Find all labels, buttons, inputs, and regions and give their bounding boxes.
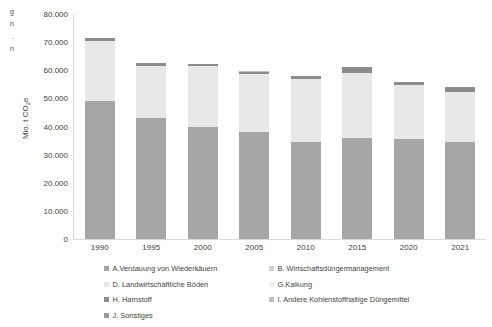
bar-segment[interactable] (188, 66, 218, 126)
legend-item-label: I. Andere Kohlenstoffhaltige Düngemittel (278, 295, 410, 304)
stacked-bar[interactable] (342, 67, 372, 239)
bar-segment[interactable] (188, 127, 218, 240)
legend-item-label: D. Landwirtschaftliche Böden (113, 280, 209, 289)
stacked-bar[interactable] (188, 64, 218, 239)
legend-swatch-icon (269, 266, 274, 271)
bar-segment[interactable] (445, 142, 475, 239)
legend-item-label: A.Verdauung von Wiederkäuern (113, 264, 218, 273)
bar-segment[interactable] (85, 101, 115, 239)
bar-segment[interactable] (239, 74, 269, 131)
x-axis-line (73, 239, 486, 240)
bar-segment[interactable] (136, 118, 166, 240)
y-axis-tick-label: 50.000 (4, 94, 68, 103)
bar-segment[interactable] (342, 73, 372, 138)
legend-swatch-icon (104, 297, 109, 302)
bar-slot (383, 14, 435, 239)
bar-segment[interactable] (291, 79, 321, 141)
bar-chart: gn.n Mio. t CO2e 80.00070.00060.00050.00… (0, 0, 492, 327)
bar-slot (126, 14, 178, 239)
legend-item[interactable]: J. Sonstiges (104, 308, 269, 324)
legend-item-label: H. Harnstoff (113, 295, 152, 304)
stacked-bar[interactable] (239, 71, 269, 239)
x-axis-tick-label: 2021 (435, 243, 487, 252)
bar-slot (435, 14, 487, 239)
stacked-bar[interactable] (85, 38, 115, 239)
y-axis-tick-label: 80.000 (4, 10, 68, 19)
bar-slot (229, 14, 281, 239)
bar-segment[interactable] (394, 85, 424, 140)
y-axis-tick-label: 40.000 (4, 122, 68, 131)
legend-item[interactable]: A.Verdauung von Wiederkäuern (104, 261, 269, 277)
legend-swatch-icon (269, 282, 274, 287)
x-axis-ticks: 19901995200020052010201520202021 (74, 243, 486, 252)
x-axis-tick-label: 2015 (332, 243, 384, 252)
legend-item[interactable]: H. Harnstoff (104, 292, 269, 308)
legend-swatch-icon (269, 297, 274, 302)
x-axis-tick-label: 2000 (177, 243, 229, 252)
y-axis-tick-label: 70.000 (4, 38, 68, 47)
y-axis-ticks: 80.00070.00060.00050.00040.00030.00020.0… (0, 14, 68, 239)
y-axis-tick-label: 20.000 (4, 178, 68, 187)
bar-segment[interactable] (85, 41, 115, 101)
legend-swatch-icon (104, 266, 109, 271)
bar-segment[interactable] (136, 66, 166, 117)
bar-segment[interactable] (445, 92, 475, 142)
x-axis-tick-label: 1990 (74, 243, 126, 252)
legend-item[interactable]: I. Andere Kohlenstoffhaltige Düngemittel (269, 292, 434, 308)
bar-segment[interactable] (394, 139, 424, 239)
x-axis-tick-label: 2010 (280, 243, 332, 252)
stacked-bar[interactable] (291, 76, 321, 239)
y-axis-tick-label: 10.000 (4, 206, 68, 215)
legend-item-label: G.Kalkung (278, 280, 313, 289)
bar-slot (332, 14, 384, 239)
bar-slot (74, 14, 126, 239)
legend-item-label: B. Wirtschaftsdüngermanagement (278, 264, 390, 273)
x-axis-tick-label: 2020 (383, 243, 435, 252)
bar-segment[interactable] (291, 142, 321, 239)
chart-legend: A.Verdauung von WiederkäuernB. Wirtschaf… (104, 261, 434, 323)
legend-item[interactable]: B. Wirtschaftsdüngermanagement (269, 261, 434, 277)
stacked-bar[interactable] (445, 87, 475, 239)
bar-slot (280, 14, 332, 239)
legend-item-label: J. Sonstiges (113, 311, 153, 320)
bar-slot (177, 14, 229, 239)
legend-swatch-icon (104, 313, 109, 318)
y-axis-tick-label: 60.000 (4, 66, 68, 75)
x-axis-tick-label: 2005 (229, 243, 281, 252)
legend-item[interactable]: D. Landwirtschaftliche Böden (104, 277, 269, 293)
stacked-bar[interactable] (394, 82, 424, 240)
bar-segment[interactable] (239, 132, 269, 239)
y-axis-tick-label: 30.000 (4, 150, 68, 159)
bar-segment[interactable] (342, 138, 372, 239)
legend-swatch-icon (104, 282, 109, 287)
legend-item[interactable]: G.Kalkung (269, 277, 434, 293)
y-axis-tick-label: 0 (4, 235, 68, 244)
x-axis-tick-label: 1995 (126, 243, 178, 252)
bar-group (74, 14, 486, 239)
stacked-bar[interactable] (136, 63, 166, 239)
